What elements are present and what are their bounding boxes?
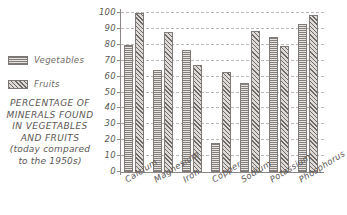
bar-fruits-calcium — [135, 13, 144, 172]
bar-fruits-potassium — [280, 46, 289, 172]
y-axis-tick-label: 10 — [105, 150, 116, 160]
x-axis-labels: CalciumMagnesiumIronCopperSodiumPotassiu… — [121, 176, 325, 215]
chart-title-line-6: to the 1950s) — [0, 156, 100, 168]
chart-title: PERCENTAGE OF MINERALS FOUND IN VEGETABL… — [0, 98, 100, 167]
y-axis-tick-label: 50 — [105, 87, 116, 97]
y-axis-tickmark — [117, 92, 120, 93]
y-axis-tickmark — [117, 60, 120, 61]
y-axis-tick-label: 80 — [105, 39, 116, 49]
y-axis-tickmark — [117, 107, 120, 108]
y-axis-tick-label: 30 — [105, 118, 116, 128]
y-axis-tickmark — [117, 155, 120, 156]
y-axis-tickmark — [117, 171, 120, 172]
bar-group — [266, 13, 295, 172]
y-axis-ticks: 0102030405060708090100 — [96, 4, 118, 179]
axes — [120, 11, 324, 173]
y-axis-tick-label: 60 — [105, 71, 116, 81]
bar-fruits-phosphorus — [309, 15, 318, 172]
plot-area: 0102030405060708090100 CalciumMagnesiumI… — [96, 4, 329, 211]
bar-group — [237, 13, 266, 172]
y-axis-tick-label: 90 — [105, 23, 116, 33]
legend-and-title-panel: Vegetables Fruits PERCENTAGE OF MINERALS… — [0, 0, 100, 211]
bar-fruits-magnesium — [164, 32, 173, 172]
bar-group — [295, 13, 324, 172]
y-axis-tick-label: 70 — [105, 55, 116, 65]
chart-title-line-1: PERCENTAGE OF — [0, 98, 100, 110]
bar-fruits-sodium — [251, 31, 260, 173]
chart-title-line-2: MINERALS FOUND — [0, 110, 100, 122]
y-axis-tickmark — [117, 44, 120, 45]
bar-vegetables-phosphorus — [298, 24, 307, 172]
chart-title-line-4: AND FRUITS — [0, 133, 100, 145]
legend-item-vegetables: Vegetables — [8, 52, 100, 68]
legend-swatch-fruits-icon — [8, 80, 28, 89]
y-axis-tick-label: 100 — [99, 7, 116, 17]
legend-label-fruits: Fruits — [34, 79, 60, 89]
y-axis-tickmark — [117, 123, 120, 124]
y-axis-tickmark — [117, 12, 120, 13]
bar-vegetables-calcium — [124, 45, 133, 172]
y-axis-tickmark — [117, 76, 120, 77]
bar-group — [208, 13, 237, 172]
y-axis-tickmark — [117, 139, 120, 140]
bar-vegetables-sodium — [240, 83, 249, 172]
legend-item-fruits: Fruits — [8, 76, 100, 92]
bar-group — [121, 13, 150, 172]
bar-vegetables-potassium — [269, 37, 278, 172]
bar-group — [179, 13, 208, 172]
y-axis-tick-label: 40 — [105, 102, 116, 112]
chart-title-line-3: IN VEGETABLES — [0, 121, 100, 133]
chart-legend: Vegetables Fruits — [8, 52, 100, 100]
legend-swatch-vegetables-icon — [8, 56, 28, 65]
bar-series-container — [121, 13, 324, 172]
bar-vegetables-copper — [211, 143, 220, 172]
y-axis-tick-label: 0 — [110, 166, 116, 176]
bar-group — [150, 13, 179, 172]
legend-label-vegetables: Vegetables — [34, 55, 84, 65]
bar-fruits-copper — [222, 72, 231, 172]
chart-title-line-5: (today compared — [0, 144, 100, 156]
y-axis-tick-label: 20 — [105, 134, 116, 144]
y-axis-tickmark — [117, 28, 120, 29]
